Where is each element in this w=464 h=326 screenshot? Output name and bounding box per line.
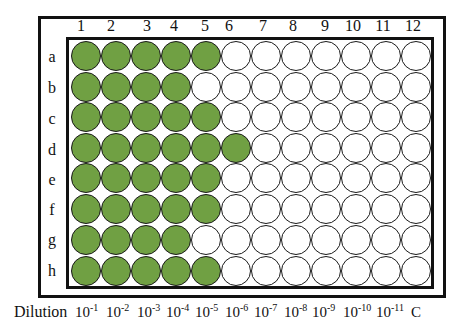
dilution-exponent: -11 [391,302,404,313]
well-a2-positive [101,41,131,71]
well-c3-positive [131,102,161,132]
well-e9-negative [311,163,341,193]
dilution-label-11: 10-11 [376,302,404,322]
well-b9-negative [311,72,341,102]
well-a3-positive [131,41,161,71]
dilution-exponent: -3 [152,302,160,313]
dilution-exponent: -2 [121,302,129,313]
well-g8-negative [281,225,311,255]
well-g1-positive [71,225,101,255]
well-e2-positive [101,163,131,193]
well-a9-negative [311,41,341,71]
well-e8-negative [281,163,311,193]
well-e7-negative [251,163,281,193]
row-label-h: h [44,261,60,281]
well-d2-positive [101,133,131,163]
dilution-label-1: 10-1 [75,302,98,322]
well-a12-negative [401,41,431,71]
column-label-8: 8 [278,16,308,36]
well-d3-positive [131,133,161,163]
well-c8-negative [281,102,311,132]
dilution-exponent: -9 [327,302,335,313]
dilution-exponent: -7 [269,302,277,313]
well-h7-negative [251,256,281,286]
well-e10-negative [341,163,371,193]
well-d5-positive [191,133,221,163]
well-g6-negative [221,225,251,255]
well-e6-negative [221,163,251,193]
well-f4-positive [161,194,191,224]
well-f11-negative [371,194,401,224]
column-label-3: 3 [132,16,162,36]
well-a11-negative [371,41,401,71]
row-label-d: d [44,140,60,160]
well-f5-positive [191,194,221,224]
well-d10-negative [341,133,371,163]
column-label-12: 12 [398,16,428,36]
well-f3-positive [131,194,161,224]
well-b3-positive [131,72,161,102]
well-f2-positive [101,194,131,224]
well-b10-negative [341,72,371,102]
well-c10-negative [341,102,371,132]
well-b6-negative [221,72,251,102]
well-g3-positive [131,225,161,255]
dilution-base: C [411,304,421,320]
well-g4-positive [161,225,191,255]
dilution-base: 10 [166,304,181,320]
dilution-label-2: 10-2 [106,302,129,322]
well-c4-positive [161,102,191,132]
well-f7-negative [251,194,281,224]
well-h11-negative [371,256,401,286]
column-label-2: 2 [96,16,126,36]
well-b2-positive [101,72,131,102]
column-label-7: 7 [248,16,278,36]
dilution-base: 10 [137,304,152,320]
well-h10-negative [341,256,371,286]
well-c2-positive [101,102,131,132]
well-a5-positive [191,41,221,71]
well-h6-negative [221,256,251,286]
dilution-label-12: C [411,302,421,322]
well-c5-positive [191,102,221,132]
well-d11-negative [371,133,401,163]
well-d4-positive [161,133,191,163]
well-b8-negative [281,72,311,102]
dilution-base: 10 [376,304,391,320]
column-label-6: 6 [214,16,244,36]
dilution-exponent: -6 [240,302,248,313]
column-label-10: 10 [338,16,368,36]
well-b1-positive [71,72,101,102]
dilution-label-8: 10-8 [284,302,307,322]
row-label-a: a [44,47,60,67]
column-label-11: 11 [368,16,398,36]
dilution-label-6: 10-6 [225,302,248,322]
dilution-base: 10 [106,304,121,320]
well-f1-positive [71,194,101,224]
well-h5-positive [191,256,221,286]
dilution-label-5: 10-5 [195,302,218,322]
well-c7-negative [251,102,281,132]
well-a6-negative [221,41,251,71]
well-e11-negative [371,163,401,193]
well-b12-negative [401,72,431,102]
dilution-label-7: 10-7 [254,302,277,322]
well-e4-positive [161,163,191,193]
well-d12-negative [401,133,431,163]
row-label-b: b [44,78,60,98]
well-d9-negative [311,133,341,163]
column-label-9: 9 [310,16,340,36]
dilution-exponent: -10 [358,302,371,313]
well-a8-negative [281,41,311,71]
well-g12-negative [401,225,431,255]
dilution-base: 10 [225,304,240,320]
well-f12-negative [401,194,431,224]
dilution-label-9: 10-9 [312,302,335,322]
well-a4-positive [161,41,191,71]
well-c1-positive [71,102,101,132]
well-b11-negative [371,72,401,102]
dilution-base: 10 [195,304,210,320]
column-label-1: 1 [66,16,96,36]
well-h3-positive [131,256,161,286]
well-f6-negative [221,194,251,224]
